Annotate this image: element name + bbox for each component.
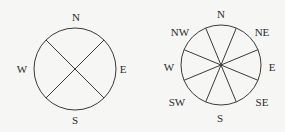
label-northwest: NW [171, 26, 190, 38]
label-southeast: SE [256, 96, 269, 108]
label-north: N [217, 8, 225, 20]
label-east: E [269, 61, 276, 73]
compass-spokes [46, 40, 104, 98]
label-west: W [17, 63, 28, 75]
eight-direction-compass: N NW NE W E SW SE S [164, 8, 276, 124]
label-north: N [72, 11, 80, 23]
diagram-canvas: N W E S N NW NE W E SW SE S [0, 0, 285, 132]
label-south: S [72, 114, 78, 126]
compass-diagrams: N W E S N NW NE W E SW SE S [0, 0, 285, 132]
compass-spokes [184, 28, 258, 102]
label-northeast: NE [255, 26, 270, 38]
label-southwest: SW [169, 96, 186, 108]
label-west: W [164, 61, 175, 73]
four-direction-compass: N W E S [17, 11, 127, 126]
label-south: S [217, 112, 223, 124]
label-east: E [120, 63, 127, 75]
